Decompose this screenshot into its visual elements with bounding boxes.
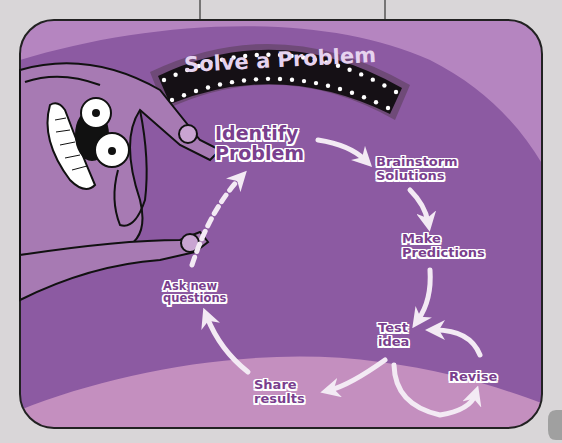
marquee-light xyxy=(359,72,363,76)
marquee-light xyxy=(314,81,318,85)
marquee-light xyxy=(350,91,354,95)
step-make-predictions: Make Predictions xyxy=(402,232,485,259)
marquee-light xyxy=(254,77,258,81)
marquee-light xyxy=(162,78,166,82)
marquee-light xyxy=(278,77,282,81)
marquee-light xyxy=(371,77,375,81)
marquee-light xyxy=(326,84,330,88)
page-tab xyxy=(548,410,562,440)
step-brainstorm-solutions: Brainstorm Solutions xyxy=(376,155,458,182)
marquee-light xyxy=(182,93,186,97)
step-ask-new-questions: Ask new questions xyxy=(163,280,226,304)
marquee-light xyxy=(266,77,270,81)
marquee-light xyxy=(218,82,222,86)
marquee-light xyxy=(382,83,386,87)
marquee-light xyxy=(338,87,342,91)
marquee-light xyxy=(394,90,398,94)
step-revise: Revise xyxy=(449,370,497,384)
marquee-light xyxy=(206,85,210,89)
marquee-light xyxy=(374,100,378,104)
marquee-light xyxy=(242,78,246,82)
marquee-light xyxy=(290,78,294,82)
marquee-light xyxy=(173,73,177,77)
marquee-light xyxy=(386,106,390,110)
marquee-light xyxy=(194,89,198,93)
marquee-light xyxy=(230,80,234,84)
step-identify-problem: Identify Problem xyxy=(215,124,304,164)
marquee-light xyxy=(302,79,306,83)
step-share-results: Share results xyxy=(254,378,305,405)
step-test-idea: Test idea xyxy=(378,321,409,348)
marquee-light xyxy=(362,95,366,99)
